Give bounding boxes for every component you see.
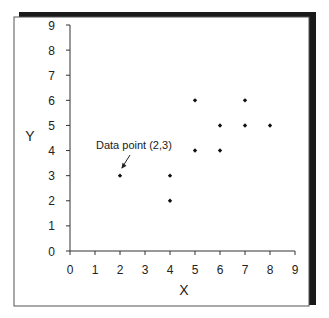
x-axis-title: X xyxy=(179,282,189,298)
x-tick-label: 2 xyxy=(117,263,124,277)
y-tick-label: 0 xyxy=(48,245,55,259)
x-tick-label: 9 xyxy=(292,263,299,277)
y-tick-label: 4 xyxy=(48,144,55,158)
x-tick-label: 8 xyxy=(267,263,274,277)
y-tick-label: 8 xyxy=(48,44,55,58)
y-tick-label: 5 xyxy=(48,119,55,133)
y-tick-label: 2 xyxy=(48,194,55,208)
y-tick-label: 6 xyxy=(48,94,55,108)
x-tick-label: 5 xyxy=(192,263,199,277)
x-tick-label: 4 xyxy=(167,263,174,277)
y-tick-label: 9 xyxy=(48,19,55,33)
y-axis-title: Y xyxy=(25,128,35,144)
y-tick-label: 7 xyxy=(48,69,55,83)
y-tick-label: 1 xyxy=(48,219,55,233)
chart-frame xyxy=(14,17,309,306)
x-tick-label: 6 xyxy=(217,263,224,277)
x-tick-label: 7 xyxy=(242,263,249,277)
x-tick-label: 1 xyxy=(92,263,99,277)
scatter-chart: 01234567890123456789 Data point (2,3) X … xyxy=(0,0,329,318)
y-tick-label: 3 xyxy=(48,169,55,183)
x-tick-label: 3 xyxy=(142,263,149,277)
x-tick-label: 0 xyxy=(67,263,74,277)
annotation-label: Data point (2,3) xyxy=(96,139,172,151)
